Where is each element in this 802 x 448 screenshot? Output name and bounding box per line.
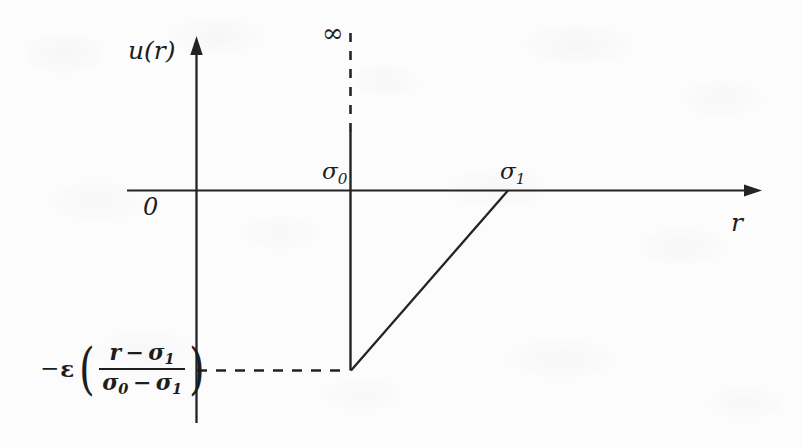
sigma1-label: σ1 — [500, 160, 525, 187]
numerator-r: r — [110, 339, 122, 365]
sigma1-subscript: 1 — [516, 170, 526, 188]
denominator-sigma-a: σ — [102, 369, 118, 395]
sigma0-symbol: σ — [322, 158, 338, 184]
sigma0-subscript: 0 — [338, 170, 348, 188]
formula-minus-sign: − — [40, 357, 59, 380]
x-axis-label: r — [731, 210, 743, 235]
formula-numerator: r − σ1 — [107, 340, 178, 368]
formula-fraction: r − σ1 σ0 − σ1 — [99, 340, 185, 398]
denominator-sigma-b: σ — [156, 369, 172, 395]
x-axis-arrowhead — [744, 185, 762, 197]
potential-energy-figure: u(r) r 0 ∞ σ0 σ1 − ε ( r − σ1 σ0 − σ1 ) — [0, 0, 802, 448]
denominator-subscript-b: 1 — [172, 380, 182, 397]
sigma0-label: σ0 — [322, 160, 347, 187]
attractive-ramp-line — [351, 191, 508, 371]
formula-denominator: σ0 − σ1 — [99, 370, 185, 398]
denominator-subscript-a: 0 — [118, 380, 128, 397]
numerator-subscript: 1 — [165, 350, 175, 367]
numerator-minus: − — [126, 339, 144, 365]
y-axis-arrowhead — [190, 36, 202, 55]
numerator-sigma: σ — [148, 339, 164, 365]
formula-epsilon: ε — [60, 357, 74, 380]
y-axis-label: u(r) — [128, 38, 176, 63]
formula-close-paren: ) — [189, 352, 205, 387]
sigma1-symbol: σ — [500, 158, 516, 184]
well-depth-formula: − ε ( r − σ1 σ0 − σ1 ) — [40, 340, 208, 398]
formula-open-paren: ( — [79, 352, 95, 387]
denominator-minus: − — [133, 369, 151, 395]
origin-label: 0 — [143, 195, 158, 219]
infinity-label: ∞ — [322, 20, 344, 46]
